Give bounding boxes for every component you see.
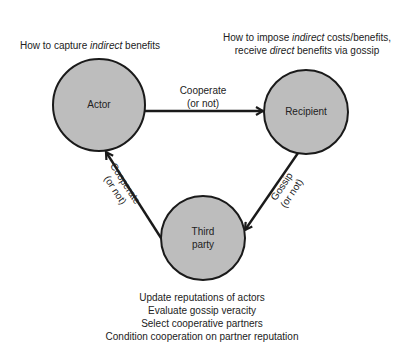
annotation-recipient: How to impose indirect costs/benefits, r… xyxy=(212,31,402,57)
edge-label-line1: Cooperate xyxy=(163,84,243,97)
annotation-recipient-line2: receive direct benefits via gossip xyxy=(212,44,402,57)
annotation-third-party-item: Select cooperative partners xyxy=(72,317,332,330)
annotation-recipient-line1: How to impose indirect costs/benefits, xyxy=(212,31,402,44)
annotation-third-party: Update reputations of actors Evaluate go… xyxy=(72,291,332,343)
annotation-third-party-item: Condition cooperation on partner reputat… xyxy=(72,330,332,343)
annotation-actor-pre: How to capture xyxy=(20,40,90,51)
node-recipient-label: Recipient xyxy=(266,105,346,118)
edge-label-actor-to-recipient: Cooperate (or not) xyxy=(163,84,243,110)
node-actor-label: Actor xyxy=(59,98,139,111)
node-third-party-label-line1: Third xyxy=(163,225,243,238)
annotation-actor-em: indirect xyxy=(90,40,122,51)
edge-label-line2: (or not) xyxy=(163,97,243,110)
annotation-recipient-line1-em: indirect xyxy=(292,32,324,43)
node-third-party-label: Third party xyxy=(163,225,243,251)
annotation-actor: How to capture indirect benefits xyxy=(20,39,160,52)
annotation-recipient-line2-post: benefits via gossip xyxy=(294,45,379,56)
annotation-recipient-line2-pre: receive xyxy=(235,45,270,56)
annotation-third-party-item: Update reputations of actors xyxy=(72,291,332,304)
annotation-third-party-item: Evaluate gossip veracity xyxy=(72,304,332,317)
annotation-actor-post: benefits xyxy=(122,40,160,51)
annotation-recipient-line1-post: costs/benefits, xyxy=(324,32,391,43)
node-third-party-label-line2: party xyxy=(163,238,243,251)
annotation-recipient-line1-pre: How to impose xyxy=(223,32,292,43)
annotation-recipient-line2-em: direct xyxy=(270,45,294,56)
